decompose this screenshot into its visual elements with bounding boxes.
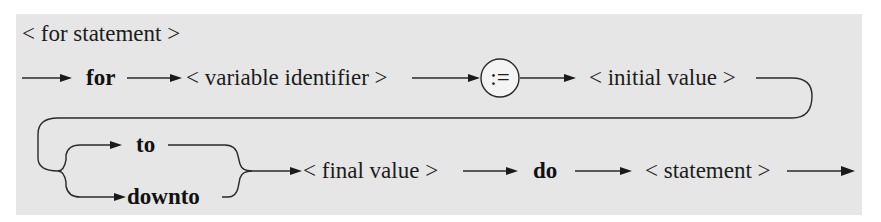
variable-identifier: < variable identifier >: [186, 65, 388, 90]
statement: < statement >: [645, 158, 771, 183]
for-statement-syntax-diagram: < for statement > for < variable identif…: [0, 0, 881, 222]
assign-symbol: :=: [490, 65, 509, 90]
diagram-title: < for statement >: [22, 21, 180, 46]
keyword-do: do: [533, 158, 557, 183]
initial-value: < initial value >: [589, 65, 736, 90]
keyword-to: to: [136, 132, 155, 157]
final-value: < final value >: [303, 158, 438, 183]
keyword-downto: downto: [127, 184, 200, 209]
keyword-for: for: [86, 65, 115, 90]
